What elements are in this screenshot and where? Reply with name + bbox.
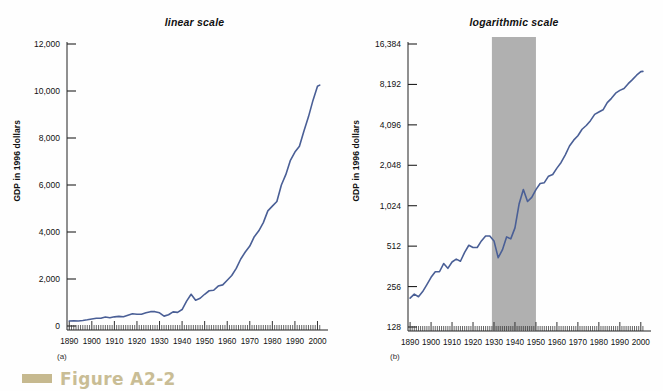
- x-tick-label: 1920: [128, 337, 146, 346]
- x-tick-label: 1990: [286, 337, 304, 346]
- y-tick-label: 8,192: [345, 79, 401, 89]
- x-tick-label: 1940: [506, 338, 524, 347]
- y-tick-label: 0: [0, 321, 60, 331]
- y-tick-label: 10,000: [0, 86, 60, 96]
- shaded-region-band: [492, 37, 536, 330]
- y-tick-label: 8,000: [0, 133, 60, 143]
- figure-root: linear scale GDP in 1996 dollars 12,000 …: [0, 0, 663, 391]
- x-tick-label: 1980: [263, 337, 281, 346]
- y-tick-label: 128: [345, 322, 401, 332]
- x-tick-label: 1910: [105, 337, 123, 346]
- y-tick-label: 16,384: [345, 39, 401, 49]
- figure-caption: Figure A2-2: [60, 369, 176, 389]
- x-tick-label: 1910: [443, 338, 461, 347]
- x-tick-label: 1930: [485, 338, 503, 347]
- panel-sublabel-b: (b): [390, 352, 400, 361]
- x-tick-label: 1950: [527, 338, 545, 347]
- x-tick-label: 1980: [590, 338, 608, 347]
- x-tick-label: 1950: [196, 337, 214, 346]
- data-series-line: [69, 85, 319, 321]
- x-tick-label: 1970: [241, 337, 259, 346]
- y-tick-label: 512: [345, 241, 401, 251]
- y-tick-label: 4,000: [0, 227, 60, 237]
- y-tick-label: 256: [345, 282, 401, 292]
- panel-title-linear: linear scale: [0, 16, 367, 28]
- x-tick-label: 1890: [60, 337, 78, 346]
- x-tick-label: 2000: [308, 337, 326, 346]
- panel-title-logarithmic: logarithmic scale: [345, 16, 663, 28]
- chart-canvas-logarithmic: [345, 0, 663, 372]
- chart-panel-linear: linear scale GDP in 1996 dollars 12,000 …: [0, 0, 345, 372]
- y-tick-label: 4,096: [345, 120, 401, 130]
- y-tick-label: 2,048: [345, 160, 401, 170]
- y-tick-label: 1,024: [345, 201, 401, 211]
- x-tick-label: 1940: [173, 337, 191, 346]
- chart-panel-logarithmic: logarithmic scale GDP in 1996 dollars 16…: [345, 0, 663, 372]
- x-tick-label: 1920: [464, 338, 482, 347]
- x-tick-label: 2000: [632, 338, 650, 347]
- x-tick-label: 1990: [611, 338, 629, 347]
- x-tick-label: 1960: [218, 337, 236, 346]
- panel-sublabel-a: (a): [57, 352, 67, 361]
- x-tick-label: 1900: [83, 337, 101, 346]
- y-tick-label: 6,000: [0, 180, 60, 190]
- x-tick-label: 1960: [548, 338, 566, 347]
- y-tick-label: 2,000: [0, 274, 60, 284]
- x-tick-label: 1890: [401, 338, 419, 347]
- x-tick-label: 1930: [150, 337, 168, 346]
- y-tick-label: 12,000: [0, 39, 60, 49]
- caption-square-bar-icon: [22, 374, 52, 383]
- x-tick-label: 1970: [569, 338, 587, 347]
- x-tick-label: 1900: [422, 338, 440, 347]
